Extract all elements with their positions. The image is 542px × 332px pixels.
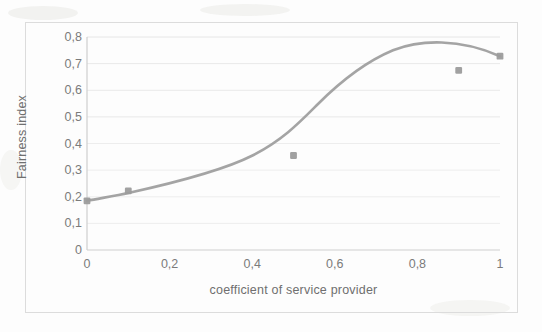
y-tick-label: 0,8 <box>65 31 82 44</box>
y-tick-label: 0,6 <box>65 84 82 97</box>
data-point <box>125 188 132 195</box>
x-axis-title: coefficient of service provider <box>87 283 500 297</box>
y-axis-tick-labels: 0,8 0,7 0,6 0,5 0,4 0,3 0,2 0,1 0 <box>44 0 82 332</box>
y-tick-label: 0,2 <box>65 191 82 204</box>
x-tick-label: 0,6 <box>315 258 355 271</box>
x-tick-label: 1 <box>480 258 520 271</box>
chart-figure: 0,8 0,7 0,6 0,5 0,4 0,3 0,2 0,1 0 0 0,2 … <box>0 0 542 332</box>
x-tick-label: 0,2 <box>150 258 190 271</box>
y-tick-label: 0,1 <box>65 217 82 230</box>
y-tick-label: 0,4 <box>65 138 82 151</box>
data-point <box>497 53 504 60</box>
data-point <box>455 67 462 74</box>
y-tick-label: 0,5 <box>65 111 82 124</box>
x-tick-label: 0,4 <box>232 258 272 271</box>
data-point <box>290 152 297 159</box>
data-line-series-0 <box>87 42 500 200</box>
y-tick-label: 0,3 <box>65 164 82 177</box>
gridlines-horizontal <box>87 37 500 223</box>
x-tick-label: 0 <box>67 258 107 271</box>
x-tick-label: 0,8 <box>397 258 437 271</box>
data-point <box>84 197 91 204</box>
x-axis-tick-labels: 0 0,2 0,4 0,6 0,8 1 <box>0 258 542 278</box>
y-tick-label: 0,7 <box>65 58 82 71</box>
y-axis-title: Fairness index <box>15 77 29 197</box>
y-tick-label: 0 <box>75 244 82 257</box>
